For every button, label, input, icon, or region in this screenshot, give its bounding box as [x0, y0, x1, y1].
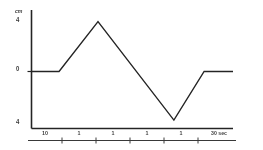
- data-series-line: [32, 22, 234, 121]
- y-axis-tick-label-zero: 0: [16, 66, 19, 72]
- y-axis-tick-label-top: 4: [16, 17, 19, 23]
- x-axis-tick-label-0: 10: [42, 130, 48, 136]
- x-axis-tick-label-3: 1: [146, 130, 149, 136]
- x-axis-tick-label-2: 1: [112, 130, 115, 136]
- x-axis-tick-label-1: 1: [78, 130, 81, 136]
- x-axis-tick-label-5: 30 sec: [211, 130, 227, 136]
- x-axis-tick-label-4: 1: [180, 130, 183, 136]
- chart-screenshot: cm 4 0 4 10 1 1 1 1 30 sec: [0, 0, 263, 150]
- chart-canvas: [0, 0, 263, 150]
- line-chart: cm 4 0 4 10 1 1 1 1 30 sec: [0, 0, 263, 150]
- y-axis-unit-label: cm: [15, 9, 22, 14]
- y-axis-tick-label-bottom: 4: [16, 119, 19, 125]
